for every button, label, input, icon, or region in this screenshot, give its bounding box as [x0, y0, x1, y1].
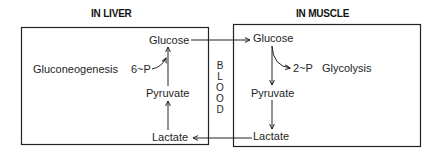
muscle-lactate-label: Lactate	[253, 130, 289, 142]
liver-title: IN LIVER	[91, 8, 132, 19]
blood-label: B L O O D	[215, 60, 225, 115]
blood-letter: L	[215, 71, 225, 82]
blood-letter: O	[215, 93, 225, 104]
muscle-pyruvate-label: Pyruvate	[251, 87, 294, 99]
liver-phosphate-label: 6~P	[131, 63, 151, 75]
muscle-title: IN MUSCLE	[296, 8, 349, 19]
muscle-phosphate-label: 2~P	[293, 62, 313, 74]
muscle-process-label: Glycolysis	[322, 62, 372, 74]
liver-pyruvate-label: Pyruvate	[146, 87, 189, 99]
blood-letter: O	[215, 82, 225, 93]
blood-letter: D	[215, 104, 225, 115]
blood-letter: B	[215, 60, 225, 71]
liver-glucose-label: Glucose	[149, 34, 189, 46]
liver-process-label: Gluconeogenesis	[33, 63, 118, 75]
liver-lactate-label: Lactate	[152, 131, 188, 143]
muscle-glucose-to-phosphate-arrow	[272, 46, 290, 68]
muscle-glucose-label: Glucose	[253, 32, 293, 44]
liver-phosphate-curve-arrow	[152, 58, 166, 69]
